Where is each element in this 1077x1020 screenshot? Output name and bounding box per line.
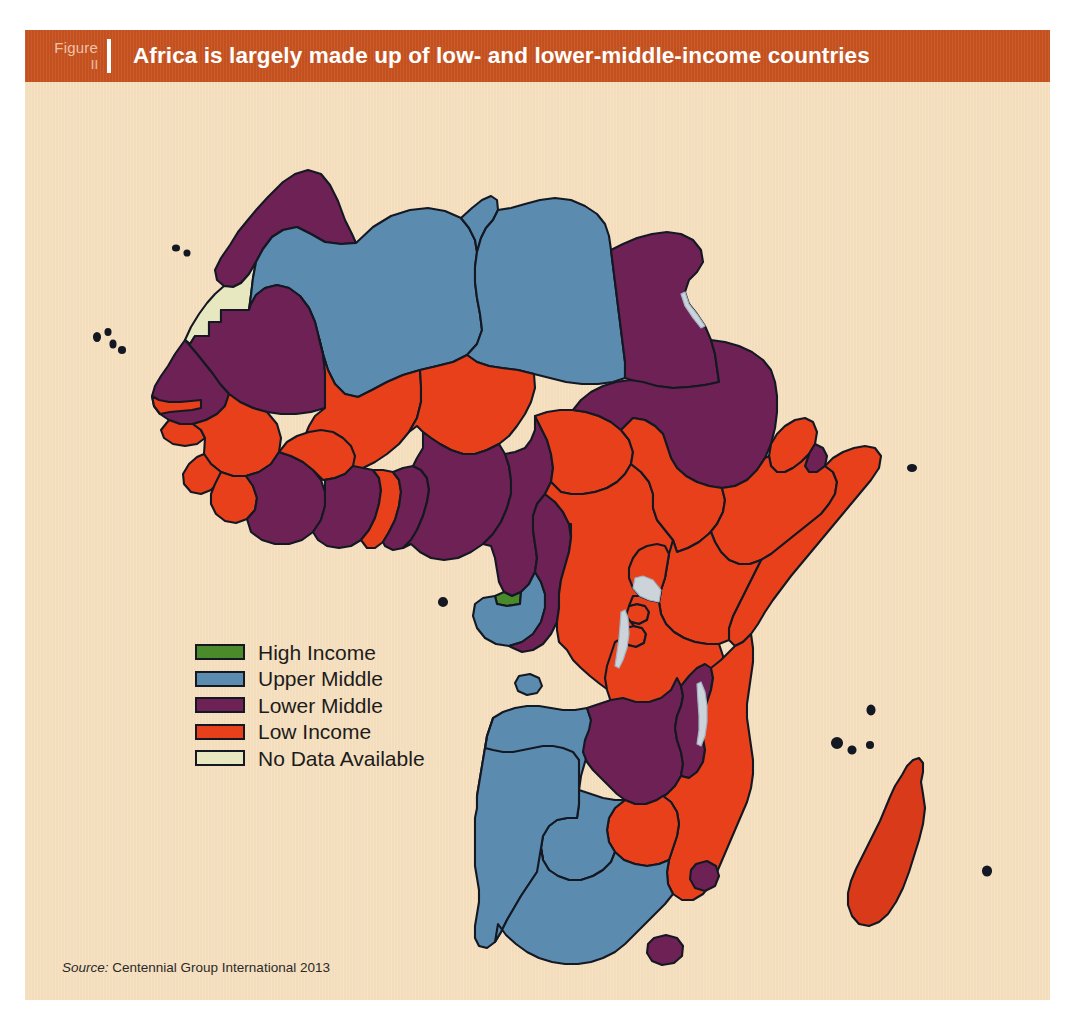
legend-swatch-high-income <box>195 644 245 660</box>
island-sao-tome[interactable] <box>439 598 447 606</box>
island-cape-verde-2[interactable] <box>106 329 111 335</box>
island-socotra[interactable] <box>908 465 916 471</box>
legend-swatch-lower-middle <box>195 697 245 713</box>
legend-label-high-income: High Income <box>258 642 376 663</box>
legend-item-upper-middle[interactable]: Upper Middle <box>195 666 440 693</box>
africa-choropleth-map <box>25 82 1050 1000</box>
legend-label-lower-middle: Lower Middle <box>258 695 383 716</box>
legend-swatch-upper-middle <box>195 671 245 687</box>
source-note: Source: Centennial Group International 2… <box>62 960 330 975</box>
region-angola-cabinda[interactable] <box>515 674 542 695</box>
island-canary-1[interactable] <box>173 246 179 251</box>
region-madagascar[interactable] <box>848 758 925 926</box>
legend-label-no-data: No Data Available <box>258 748 425 769</box>
legend-item-no-data[interactable]: No Data Available <box>195 745 440 772</box>
region-swaziland[interactable] <box>690 861 719 891</box>
island-mauritius[interactable] <box>983 867 991 876</box>
figure-panel: Figure II Africa is largely made up of l… <box>25 30 1050 1000</box>
legend-swatch-low-income <box>195 724 245 740</box>
map-legend: High Income Upper Middle Lower Middle Lo… <box>195 639 440 772</box>
island-cape-verde-4[interactable] <box>119 347 125 353</box>
island-comoros-2[interactable] <box>849 747 856 754</box>
map-area: High Income Upper Middle Lower Middle Lo… <box>25 82 1050 1000</box>
island-cape-verde-3[interactable] <box>111 341 116 348</box>
island-cape-verde-1[interactable] <box>94 333 100 341</box>
legend-item-high-income[interactable]: High Income <box>195 639 440 666</box>
legend-swatch-no-data <box>195 750 245 766</box>
legend-item-low-income[interactable]: Low Income <box>195 719 440 746</box>
island-comoros-1[interactable] <box>832 738 842 748</box>
region-lesotho[interactable] <box>647 935 683 965</box>
figure-header: Figure II Africa is largely made up of l… <box>25 30 1050 82</box>
region-libya[interactable] <box>467 198 625 384</box>
legend-item-lower-middle[interactable]: Lower Middle <box>195 692 440 719</box>
region-egypt[interactable] <box>611 232 719 388</box>
figure-title: Africa is largely made up of low- and lo… <box>111 30 870 82</box>
legend-label-low-income: Low Income <box>258 721 371 742</box>
island-canary-2[interactable] <box>185 251 190 256</box>
legend-label-upper-middle: Upper Middle <box>258 668 383 689</box>
figure-number-block: Figure II <box>25 30 107 82</box>
figure-number-word: Figure <box>54 40 98 55</box>
island-mayotte[interactable] <box>867 742 873 748</box>
island-seychelles[interactable] <box>868 706 875 715</box>
source-prefix: Source: <box>62 960 109 975</box>
source-text: Centennial Group International 2013 <box>109 960 330 975</box>
figure-number-roman: II <box>91 57 98 72</box>
